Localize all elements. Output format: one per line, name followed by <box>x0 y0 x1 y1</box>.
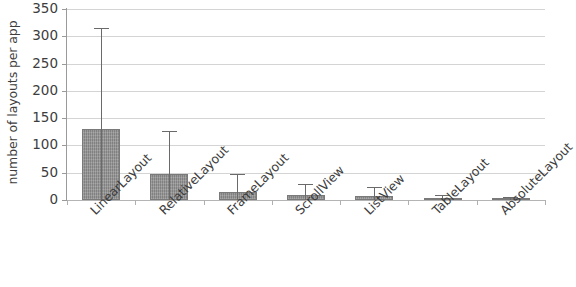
y-axis-title-text: number of layouts per app <box>5 20 20 184</box>
x-axis-tick-mark <box>135 200 136 205</box>
x-axis-tick-mark <box>67 200 68 205</box>
error-bar-cap <box>298 184 313 185</box>
y-axis-tick-label: 0 <box>18 193 58 207</box>
error-bar-cap <box>162 131 177 132</box>
error-bar-cap <box>94 28 109 29</box>
x-axis-labels: LinearLayoutRelativeLayoutFrameLayoutScr… <box>67 200 545 287</box>
error-bar-stem <box>169 132 170 200</box>
bar-group[interactable] <box>340 9 408 200</box>
x-axis-tick-mark <box>340 200 341 205</box>
y-axis-tick-label: 100 <box>18 138 58 152</box>
y-axis-tick-label: 250 <box>18 57 58 71</box>
error-bar-cap <box>230 174 245 175</box>
y-axis-tick-label: 200 <box>18 84 58 98</box>
y-axis-tick-label: 50 <box>18 166 58 180</box>
x-axis-tick-mark <box>272 200 273 205</box>
y-axis-tick-label: 350 <box>18 2 58 16</box>
error-bar-stem <box>101 29 102 200</box>
x-axis-tick-mark <box>204 200 205 205</box>
y-axis-tick-label: 300 <box>18 29 58 43</box>
y-axis-tick-label: 150 <box>18 111 58 125</box>
x-axis-tick-mark <box>408 200 409 205</box>
x-axis-tick-mark <box>545 200 546 205</box>
x-axis-tick-mark <box>477 200 478 205</box>
